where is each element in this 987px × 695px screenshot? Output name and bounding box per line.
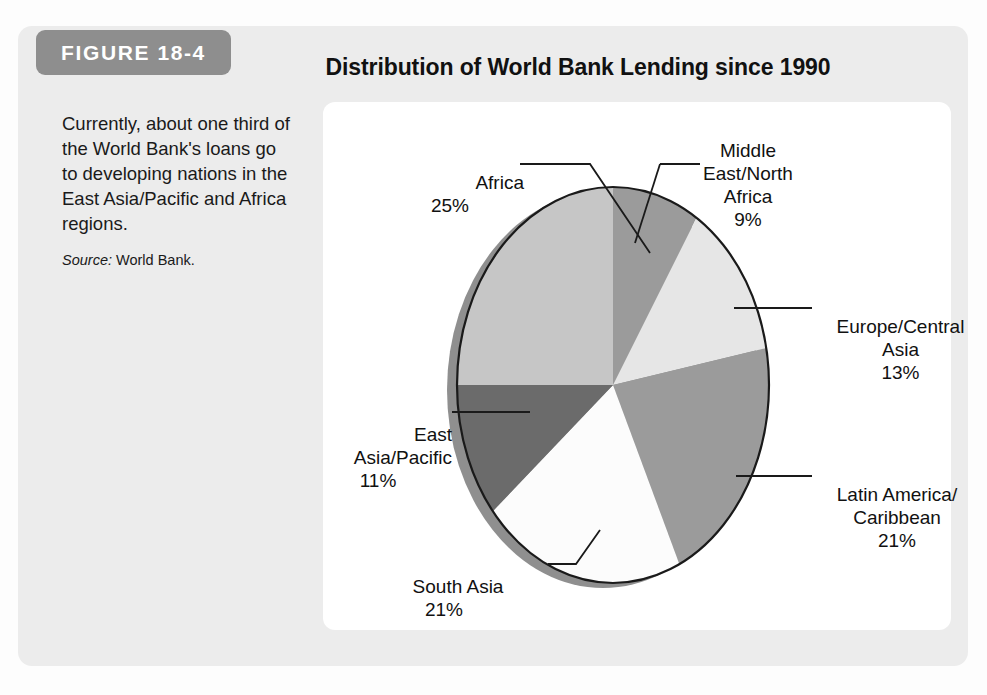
caption-block: Currently, about one third of the World … bbox=[62, 111, 292, 268]
figure-number-label: FIGURE 18-4 bbox=[61, 41, 206, 65]
callout-latin-value: 21% bbox=[812, 529, 982, 552]
callout-africa-name: Africa bbox=[475, 172, 524, 193]
chart-title: Distribution of World Bank Lending since… bbox=[258, 54, 898, 81]
figure-number-badge: FIGURE 18-4 bbox=[36, 30, 231, 75]
callout-africa: Africa 25% bbox=[404, 148, 524, 240]
callout-east-value: 11% bbox=[322, 469, 452, 492]
source-note: Source: World Bank. bbox=[62, 252, 292, 268]
callout-south-asia: South Asia 21% bbox=[368, 552, 548, 644]
figure-screenshot: FIGURE 18-4 Distribution of World Bank L… bbox=[0, 0, 987, 695]
callout-east-asia-pacific: East Asia/Pacific 11% bbox=[322, 400, 452, 515]
callout-south-name: South Asia bbox=[413, 576, 504, 597]
callout-latin-name: Latin America/ Caribbean bbox=[837, 484, 957, 528]
figure-caption: Currently, about one third of the World … bbox=[62, 111, 292, 236]
source-value: World Bank. bbox=[116, 252, 195, 268]
callout-africa-value: 25% bbox=[404, 194, 524, 217]
callout-latin-america-caribbean: Latin America/ Caribbean 21% bbox=[812, 460, 982, 575]
callout-mena-name: Middle East/North Africa bbox=[703, 140, 793, 207]
callout-south-value: 21% bbox=[368, 598, 548, 621]
callout-europe-name: Europe/Central Asia bbox=[837, 316, 965, 360]
callout-middle-east-north-africa: Middle East/North Africa 9% bbox=[668, 116, 828, 254]
source-label: Source: bbox=[62, 252, 112, 268]
callout-europe-value: 13% bbox=[818, 361, 983, 384]
callout-east-name: East Asia/Pacific bbox=[354, 424, 452, 468]
callout-mena-value: 9% bbox=[668, 208, 828, 231]
callout-europe-central-asia: Europe/Central Asia 13% bbox=[818, 292, 983, 407]
